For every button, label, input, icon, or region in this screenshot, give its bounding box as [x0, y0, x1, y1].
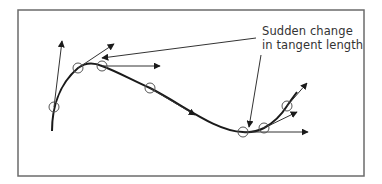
annotation-line-2: in tangent length: [262, 38, 363, 52]
tangent-arrow: [150, 88, 195, 115]
tangent-vectors: [54, 41, 308, 132]
annotation-label: Sudden change in tangent length: [262, 24, 363, 52]
pointer-arrow: [102, 38, 256, 58]
bezier-curve: [52, 64, 297, 133]
annotation-line-1: Sudden change: [262, 24, 363, 38]
pointer-arrow: [249, 55, 261, 127]
annotation-pointers: [102, 38, 261, 127]
